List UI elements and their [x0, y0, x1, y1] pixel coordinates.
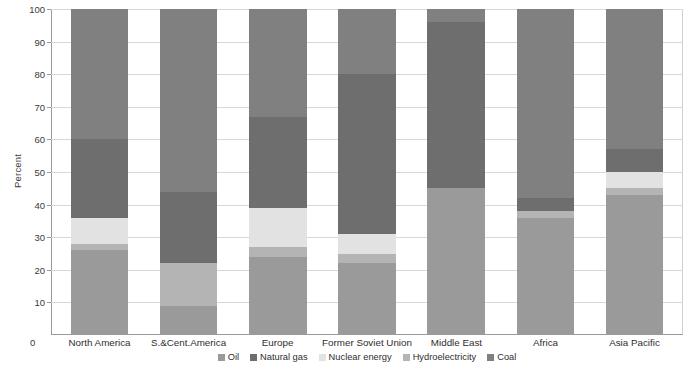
bar-segment — [606, 149, 663, 172]
bar-segment — [338, 263, 395, 335]
bar-segment — [338, 9, 395, 74]
y-axis-tick-label: 70 — [34, 101, 45, 112]
y-axis-tick-label: 10 — [34, 297, 45, 308]
bar-group — [501, 9, 590, 335]
bar-segment — [71, 218, 128, 244]
x-axis-tick-label: Former Soviet Union — [322, 337, 412, 348]
y-axis-title-label: Percent — [12, 154, 23, 188]
bar-segment — [606, 195, 663, 335]
bar-segment — [517, 198, 574, 211]
bar-group — [412, 9, 501, 335]
x-axis-labels: North AmericaS.&Cent.AmericaEuropeFormer… — [51, 337, 683, 348]
stacked-bar — [338, 9, 395, 335]
x-axis-tick-label: Europe — [233, 337, 322, 348]
y-axis-tick-label: 90 — [34, 36, 45, 47]
bar-segment — [71, 139, 128, 217]
x-axis-tick-label: North America — [55, 337, 144, 348]
bar-segment — [249, 247, 306, 257]
y-axis-tick-label: 50 — [34, 167, 45, 178]
bar-group — [144, 9, 233, 335]
legend-item[interactable]: Coal — [487, 352, 516, 362]
bar-segment — [160, 306, 217, 335]
x-axis-tick-label: S.&Cent.America — [144, 337, 233, 348]
bar-segment — [517, 9, 574, 198]
bar-segment — [160, 9, 217, 192]
stacked-bar — [606, 9, 663, 335]
y-axis-tick-label: 60 — [34, 134, 45, 145]
legend-swatch-icon — [218, 354, 225, 361]
x-axis-tick-label: Middle East — [412, 337, 501, 348]
stacked-bar — [249, 9, 306, 335]
legend-label: Nuclear energy — [329, 352, 392, 362]
bar-segment — [160, 263, 217, 305]
y-axis-tick-label: 20 — [34, 264, 45, 275]
legend-item[interactable]: Natural gas — [250, 352, 308, 362]
legend-item[interactable]: Hydroelectricity — [403, 352, 477, 362]
y-axis-tick-label: 100 — [29, 4, 45, 15]
bar-segment — [160, 192, 217, 264]
y-axis-tick-label: 80 — [34, 69, 45, 80]
y-axis-zero-label: 0 — [30, 337, 35, 348]
x-axis-tick-label: Asia Pacific — [590, 337, 679, 348]
legend-label: Hydroelectricity — [413, 352, 477, 362]
bar-segment — [71, 9, 128, 139]
stacked-bar — [517, 9, 574, 335]
legend-swatch-icon — [403, 354, 410, 361]
x-axis-tick-label: Africa — [501, 337, 590, 348]
bar-segment — [338, 234, 395, 254]
bar-group — [55, 9, 144, 335]
legend-swatch-icon — [319, 354, 326, 361]
bar-group — [590, 9, 679, 335]
bar-group — [233, 9, 322, 335]
legend-label: Coal — [497, 352, 516, 362]
plot-area: 102030405060708090100 — [51, 9, 683, 335]
bar-segment — [427, 9, 484, 22]
bar-segment — [338, 74, 395, 234]
stacked-bar — [160, 9, 217, 335]
bar-segment — [427, 188, 484, 335]
legend-item[interactable]: Oil — [218, 352, 239, 362]
y-axis-tick-label: 40 — [34, 199, 45, 210]
bar-segment — [249, 208, 306, 247]
stacked-bar — [71, 9, 128, 335]
legend-label: Oil — [228, 352, 239, 362]
bar-segment — [249, 257, 306, 335]
bar-segment — [427, 22, 484, 188]
legend-swatch-icon — [487, 354, 494, 361]
chart-legend: OilNatural gasNuclear energyHydroelectri… — [51, 352, 683, 362]
stacked-bar — [427, 9, 484, 335]
bar-segment — [249, 117, 306, 208]
bar-segment — [517, 218, 574, 335]
legend-label: Natural gas — [260, 352, 308, 362]
bar-segment — [249, 9, 306, 117]
stacked-bar-chart: Percent 0 102030405060708090100 North Am… — [0, 0, 690, 377]
bar-segment — [71, 250, 128, 335]
bar-segment — [606, 172, 663, 188]
bar-segment — [606, 9, 663, 149]
bars-layer — [51, 9, 683, 335]
y-axis-title: Percent — [2, 126, 13, 140]
bar-group — [322, 9, 411, 335]
legend-item[interactable]: Nuclear energy — [319, 352, 392, 362]
bar-segment — [338, 254, 395, 264]
legend-swatch-icon — [250, 354, 257, 361]
y-axis-tick-label: 30 — [34, 232, 45, 243]
